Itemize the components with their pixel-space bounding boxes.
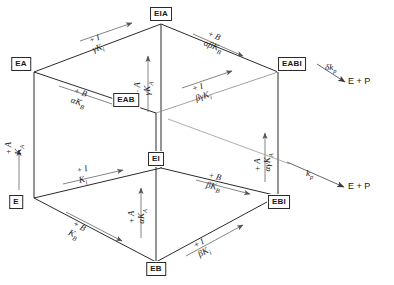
node-EIA[interactable]: EIA — [150, 7, 172, 21]
node-EBI[interactable]: EBI — [268, 195, 290, 209]
arrow-E-EB — [66, 212, 122, 241]
edge-line-E-EB — [34, 198, 156, 262]
edge-line-EAB-exit — [168, 119, 290, 164]
edge-line-EA-EIA — [34, 24, 161, 72]
node-EAB[interactable]: EAB — [113, 93, 139, 107]
cube-edges-svg — [0, 0, 394, 285]
node-EABI[interactable]: EABI — [278, 57, 306, 71]
node-E[interactable]: E — [9, 195, 23, 209]
edge-line-EIA-EABI — [161, 24, 278, 72]
arrow-EAB-EABI — [182, 71, 232, 88]
product-label-bottom: E + P — [348, 181, 370, 191]
arrow-E-EI — [63, 170, 123, 184]
node-EA[interactable]: EA — [11, 57, 31, 71]
arrow-EAB-product — [287, 162, 344, 187]
edge-line-EAB-EABI — [156, 72, 278, 113]
node-EB[interactable]: EB — [146, 262, 166, 276]
arrow-EABI-product — [317, 64, 345, 82]
product-label-top: E + P — [348, 76, 370, 86]
reaction-scheme-diagram: E EA EB EAB EI EIA EBI EABI E + P E + P … — [0, 0, 394, 285]
arrow-EA-EAB — [59, 86, 118, 106]
edge-line-E-EI — [34, 168, 161, 198]
edge-line-EB-EBI — [156, 196, 278, 262]
arrow-EIA-EABI — [193, 34, 243, 56]
arrow-EB-EBI — [186, 225, 243, 256]
node-EI[interactable]: EI — [148, 152, 164, 166]
edge-line-EI-EBI — [161, 168, 278, 196]
